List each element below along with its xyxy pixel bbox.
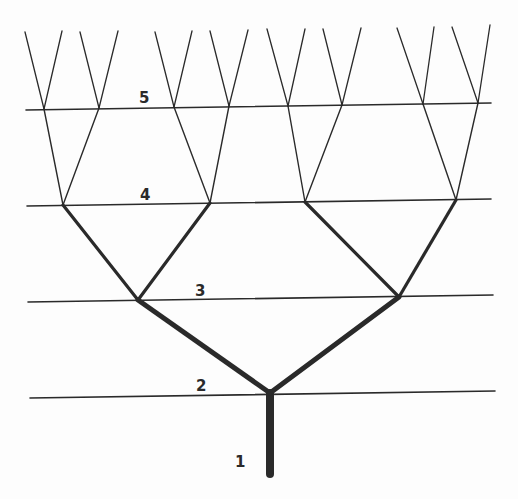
branch-l4-l5 <box>210 106 229 203</box>
branch-l5-tip <box>44 31 62 109</box>
branch-l2-l3 <box>270 297 399 393</box>
level-line-5 <box>26 103 491 110</box>
level-label-1: 1 <box>235 455 245 470</box>
level-label-4: 4 <box>140 188 150 203</box>
branch-l5-tip <box>397 28 423 104</box>
level-label-3: 3 <box>195 284 205 299</box>
level-label-2: 2 <box>196 379 206 394</box>
branch-l5-tip <box>25 32 44 109</box>
branch-l4-l5 <box>174 107 210 203</box>
branch-l4-l5 <box>44 109 63 205</box>
branch-l5-tip <box>423 27 434 104</box>
branch-l5-tip <box>452 27 478 103</box>
branch-l5-tip <box>288 29 305 106</box>
branch-l5-tip <box>155 32 174 107</box>
level-line-3 <box>28 295 493 302</box>
branch-l4-l5 <box>288 106 305 202</box>
branch-l5-tip <box>267 29 288 106</box>
tree-drawing <box>0 0 518 499</box>
branch-l5-tip <box>478 25 490 103</box>
branch-l3-l4 <box>305 202 399 297</box>
branch-l4-l5 <box>305 105 342 202</box>
branching-tree-diagram: 1 2 3 4 5 <box>0 0 518 499</box>
branch-l5-tip <box>210 31 229 106</box>
branch-l5-tip <box>229 30 248 106</box>
branch-l5-tip <box>174 31 192 107</box>
branch-l3-l4 <box>399 200 456 297</box>
branch-l5-tip <box>80 32 99 108</box>
branch-l5-tip <box>99 31 118 108</box>
level-line-2 <box>30 391 495 398</box>
level-label-5: 5 <box>139 91 149 106</box>
branch-l4-l5 <box>456 103 478 200</box>
branch-l4-l5 <box>423 104 456 200</box>
branch-l5-tip <box>323 29 342 105</box>
branch-l4-l5 <box>63 108 99 205</box>
branch-l5-tip <box>342 28 361 105</box>
level-line-4 <box>27 199 491 206</box>
branch-l3-l4 <box>63 205 138 300</box>
